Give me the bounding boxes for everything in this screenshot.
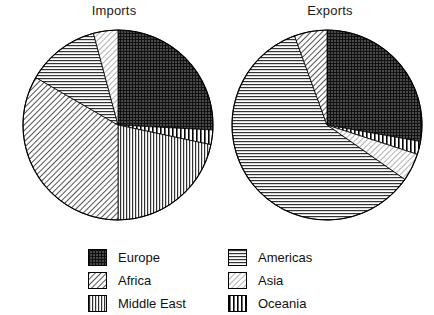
legend-item-middle-east: Middle East bbox=[88, 292, 186, 315]
legend-label-europe: Europe bbox=[118, 251, 160, 264]
exports-title: Exports bbox=[222, 3, 434, 18]
legend-swatch-africa bbox=[88, 272, 107, 289]
legend-label-oceania: Oceania bbox=[258, 297, 306, 310]
legend-item-europe: Europe bbox=[88, 246, 186, 269]
legend-swatch-oceania bbox=[228, 295, 247, 312]
legend-item-asia: Asia bbox=[228, 269, 312, 292]
legend-swatch-americas bbox=[228, 249, 247, 266]
pie-slice-europe bbox=[118, 30, 213, 130]
legend-label-africa: Africa bbox=[118, 274, 151, 287]
exports-pie-svg bbox=[222, 24, 434, 236]
legend-swatch-middle-east bbox=[88, 295, 107, 312]
legend-item-oceania: Oceania bbox=[228, 292, 312, 315]
legend-swatch-europe bbox=[88, 249, 107, 266]
legend-column-right: Americas Asia Oceania bbox=[228, 246, 312, 315]
legend-item-americas: Americas bbox=[228, 246, 312, 269]
legend-label-asia: Asia bbox=[258, 274, 283, 287]
imports-pie-svg bbox=[0, 24, 228, 236]
legend-label-middle-east: Middle East bbox=[118, 297, 186, 310]
charts-container: Imports Exports bbox=[0, 0, 434, 245]
legend-column-left: Europe Africa Middle East bbox=[88, 246, 186, 315]
pie-slice-europe bbox=[327, 30, 422, 142]
legend-swatch-asia bbox=[228, 272, 247, 289]
legend: Europe Africa Middle East Americas Asia … bbox=[0, 246, 434, 315]
legend-item-africa: Africa bbox=[88, 269, 186, 292]
legend-label-americas: Americas bbox=[258, 251, 312, 264]
imports-title: Imports bbox=[0, 3, 228, 18]
